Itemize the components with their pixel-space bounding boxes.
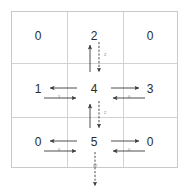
edge-label-c10-c11: 1 [54, 94, 64, 99]
edge-label-c20-c21: 0 [54, 147, 64, 152]
grid-vertical-divider-1 [67, 12, 68, 167]
cell-value-r1c0: 1 [27, 82, 49, 96]
edge-label-c01-c11: 2 [100, 52, 110, 57]
edge-label-c12-c11: 0 [124, 94, 134, 99]
cell-value-r1c2: 3 [139, 82, 161, 96]
cell-value-r2c2: 0 [139, 135, 161, 149]
cell-value-r2c1: 5 [83, 135, 105, 149]
diagram-canvas: 0 2 0 1 4 3 0 5 0 1 0 0 0 2 2 12 [0, 0, 192, 191]
grid-vertical-divider-2 [123, 12, 124, 167]
cell-value-r0c2: 0 [139, 29, 161, 43]
cell-value-r1c1: 4 [83, 82, 105, 96]
grid-horizontal-divider-1 [12, 63, 177, 64]
edge-label-c11-c21: 2 [100, 110, 110, 115]
cell-value-r0c0: 0 [27, 29, 49, 43]
cell-value-r0c1: 2 [83, 29, 105, 43]
edge-label-c21-outside: 12 [90, 163, 100, 168]
grid-horizontal-divider-2 [12, 117, 177, 118]
edge-label-c22-c21: 0 [124, 147, 134, 152]
cell-value-r2c0: 0 [27, 135, 49, 149]
